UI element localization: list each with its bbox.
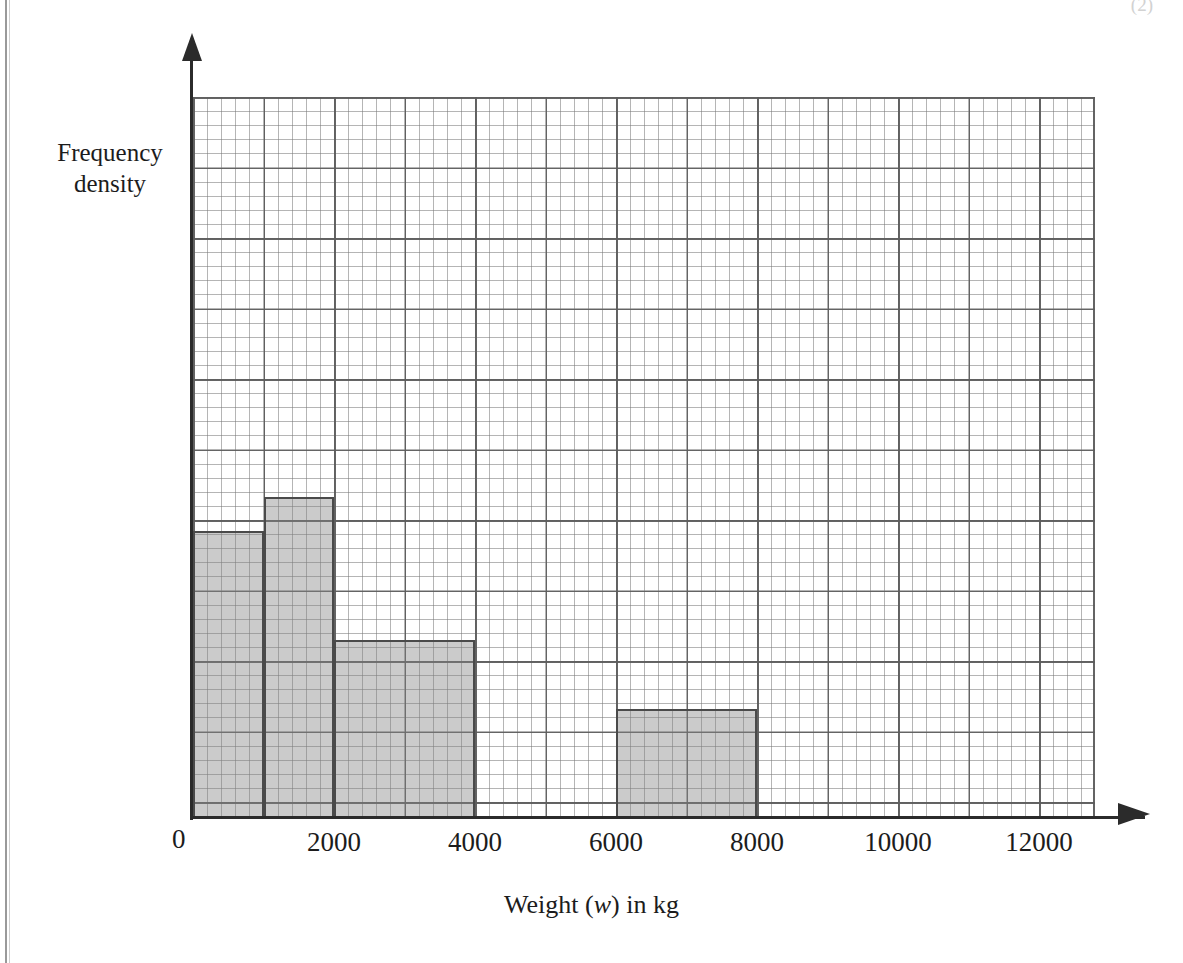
y-axis-label-line-2: density [40,168,180,199]
x-axis-tick-label: 10000 [864,827,932,858]
y-axis-line [190,52,193,820]
x-axis-line [190,816,1145,819]
y-axis-arrowhead-icon [182,33,202,61]
histogram-bar [334,640,475,818]
x-axis-tick-label: 12000 [1005,827,1073,858]
x-axis-tick-label: 2000 [307,827,361,858]
histogram-bar [193,531,264,818]
y-axis-label: Frequency density [40,137,180,199]
histogram-figure: Frequency density 0 20004000600080001000… [0,0,1183,963]
grid-right-edge [1093,97,1095,818]
y-axis-label-line-1: Frequency [40,137,180,168]
histogram-bar [616,709,757,818]
histogram-bar [264,497,335,818]
x-axis-title-prefix: Weight ( [504,890,594,919]
x-axis-title-variable: w [594,890,611,919]
x-axis-origin-label: 0 [172,824,186,855]
x-axis-tick-label: 4000 [448,827,502,858]
plot-area [193,97,1095,818]
x-axis-tick-label: 6000 [589,827,643,858]
x-axis-tick-label: 8000 [730,827,784,858]
x-axis-title-suffix: ) in kg [611,890,679,919]
x-axis-arrowhead-icon [1118,803,1150,825]
x-axis-title: Weight (w) in kg [0,890,1183,920]
